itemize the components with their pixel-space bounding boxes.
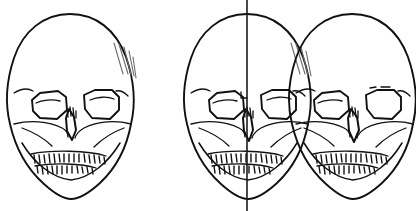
skull-figure: Three anterior-view human skull line dra… (0, 0, 416, 211)
skull-illustration-canvas (0, 0, 416, 211)
